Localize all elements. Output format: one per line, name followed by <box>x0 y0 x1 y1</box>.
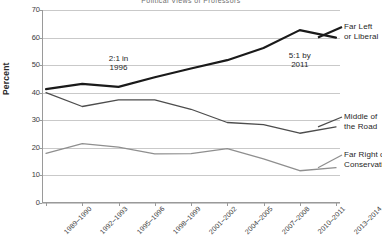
chart-annotation: 2:1 in 1996 <box>91 54 147 73</box>
series-lines <box>42 10 340 203</box>
y-axis-tick-label: 40 <box>16 89 40 97</box>
x-axis-tick-label: 1992–1993 <box>99 205 129 235</box>
x-axis-tick-label: 2004–2005 <box>244 205 274 235</box>
x-axis-tick-label: 1989–1990 <box>63 205 93 235</box>
y-axis-label: Percent <box>1 62 11 95</box>
chart-container: Political Views of Professors Percent 01… <box>0 0 382 244</box>
series-line <box>46 93 336 134</box>
series-line <box>46 144 336 171</box>
y-axis-tick-label: 20 <box>16 144 40 152</box>
x-axis-tick-label: 1995–1996 <box>135 205 165 235</box>
y-axis-tick-label: 50 <box>16 61 40 69</box>
y-axis-tick-label: 30 <box>16 116 40 124</box>
plot-area: 2:1 in 19965:1 by 2011 <box>42 10 340 203</box>
series-end-label: Far Left or Liberal <box>344 22 378 41</box>
series-leader-line <box>318 0 342 244</box>
x-axis-tick-label: 2013–2014 <box>353 205 382 235</box>
x-axis-tick-label: 2007–2008 <box>280 205 310 235</box>
series-end-label: Far Right or Conservative <box>344 150 382 169</box>
y-axis-tick-label: 60 <box>16 34 40 42</box>
y-axis-tick-label: 70 <box>16 6 40 14</box>
series-end-label: Middle of the Road <box>344 112 377 131</box>
y-axis-tick-label: 10 <box>16 171 40 179</box>
x-axis-tick-label: 1998–1999 <box>171 205 201 235</box>
x-axis-tick-label: 2001–2002 <box>208 205 238 235</box>
